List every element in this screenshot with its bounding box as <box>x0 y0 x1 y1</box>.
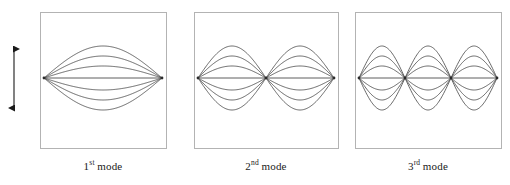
panel-caption-2nd-mode: 2ndmode <box>194 160 338 172</box>
mode-panel-2 <box>195 13 339 149</box>
caption-ordinal-1: 1st <box>84 160 95 172</box>
panel-border-3 <box>356 13 502 149</box>
panel-caption-3rd-mode: 3rdmode <box>355 160 501 172</box>
caption-word-1: mode <box>97 160 122 172</box>
mode-panels-group <box>41 13 502 149</box>
mode-envelope-1-amp3-down <box>44 78 162 110</box>
mode-node-2-2 <box>333 77 336 80</box>
mode-envelope-1-amp2-up <box>44 56 162 78</box>
mode-node-1-1 <box>161 77 164 80</box>
mode-panel-1 <box>41 13 167 149</box>
mode-panel-3 <box>356 13 502 149</box>
mode-node-3-1 <box>404 77 407 80</box>
mode-node-1-0 <box>43 77 46 80</box>
panel-border-2 <box>195 13 339 149</box>
panel-caption-1st-mode: 1stmode <box>40 160 166 172</box>
caption-suffix-3: rd <box>414 158 421 167</box>
caption-word-2: mode <box>261 160 286 172</box>
mode-shape-figure: 1stmode 2ndmode 3rdmode <box>0 0 510 185</box>
mode-envelope-1-amp3-up <box>44 46 162 78</box>
caption-suffix-2: nd <box>251 158 259 167</box>
panel-border-1 <box>41 13 167 149</box>
mode-envelope-1-amp2-down <box>44 78 162 100</box>
caption-suffix-1: st <box>89 158 94 167</box>
mode-node-3-3 <box>496 77 499 80</box>
caption-ordinal-3: 3rd <box>408 160 420 172</box>
mode-shape-canvas <box>0 0 510 185</box>
mode-node-3-0 <box>358 77 361 80</box>
mode-node-2-1 <box>265 77 268 80</box>
mode-node-3-2 <box>450 77 453 80</box>
caption-ordinal-2: 2nd <box>245 160 259 172</box>
caption-word-3: mode <box>423 160 448 172</box>
mode-node-2-0 <box>197 77 200 80</box>
